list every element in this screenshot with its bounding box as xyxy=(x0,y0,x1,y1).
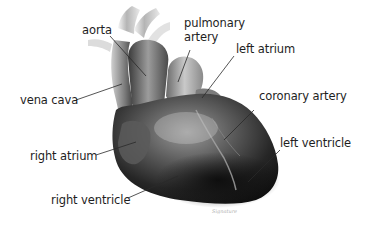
heart-diagram: aorta pulmonary artery left atrium vena … xyxy=(0,0,366,226)
label-left-ventricle: left ventricle xyxy=(280,137,351,150)
label-right-ventricle: right ventricle xyxy=(51,194,130,207)
label-vena-cava: vena cava xyxy=(20,94,78,107)
label-right-atrium: right atrium xyxy=(30,150,97,163)
ventricle-shadow xyxy=(156,152,280,208)
label-coronary-artery: coronary artery xyxy=(259,90,347,103)
label-left-atrium: left atrium xyxy=(236,43,295,56)
label-pulmonary-artery: pulmonary artery xyxy=(184,16,245,44)
artist-signature: Signature xyxy=(212,208,237,214)
leader-left-atrium xyxy=(202,56,234,98)
label-aorta: aorta xyxy=(82,24,112,37)
